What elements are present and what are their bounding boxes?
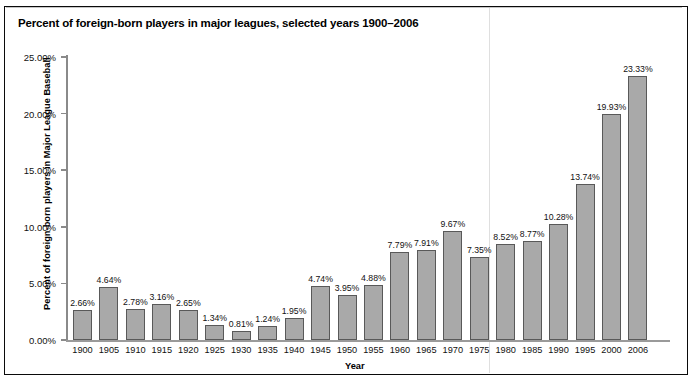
bar[interactable] <box>99 287 118 340</box>
bar[interactable] <box>496 244 515 340</box>
y-axis-tick-label: 20.00% <box>24 108 56 119</box>
bar-value-label: 8.77% <box>520 229 545 239</box>
bar-group[interactable]: 7.79% <box>390 57 409 340</box>
bar-value-label: 9.67% <box>440 219 465 229</box>
bar[interactable] <box>523 241 542 340</box>
bar[interactable] <box>576 184 595 340</box>
bar[interactable] <box>285 318 304 340</box>
bar-group[interactable]: 3.95% <box>338 57 357 340</box>
bar-value-label: 4.74% <box>308 274 333 284</box>
bar[interactable] <box>73 310 92 340</box>
bar-group[interactable]: 4.88% <box>364 57 383 340</box>
y-axis-tick <box>61 113 66 115</box>
bar-value-label: 1.95% <box>282 306 307 316</box>
bar-group[interactable]: 13.74% <box>576 57 595 340</box>
bar-group[interactable]: 3.16% <box>152 57 171 340</box>
y-axis-tick-label: 0.00% <box>29 335 56 346</box>
bar[interactable] <box>232 331 251 340</box>
bar[interactable] <box>311 286 330 340</box>
bar-group[interactable]: 1.24% <box>258 57 277 340</box>
scan-artifact-top <box>6 7 682 8</box>
bar-group[interactable]: 4.64% <box>99 57 118 340</box>
bar[interactable] <box>417 250 436 340</box>
bar-value-label: 1.24% <box>255 314 280 324</box>
bar-group[interactable]: 2.78% <box>126 57 145 340</box>
bar-group[interactable]: 7.91% <box>417 57 436 340</box>
bar[interactable] <box>258 326 277 340</box>
bar-group[interactable]: 1.95% <box>285 57 304 340</box>
bar-group[interactable]: 0.81% <box>232 57 251 340</box>
bar-value-label: 10.28% <box>544 212 573 222</box>
bar-group[interactable]: 19.93% <box>602 57 621 340</box>
bar[interactable] <box>549 224 568 340</box>
bar-group[interactable]: 2.66% <box>73 57 92 340</box>
bar-group[interactable]: 1.34% <box>205 57 224 340</box>
bar-value-label: 0.81% <box>229 319 254 329</box>
bar-group[interactable]: 10.28% <box>549 57 568 340</box>
y-axis-title: Percent of foreign-born players in Major… <box>42 60 52 310</box>
x-axis-tick-label: 2006 <box>618 345 658 355</box>
bar-group[interactable]: 7.35% <box>470 57 489 340</box>
bar[interactable] <box>126 309 145 340</box>
bar[interactable] <box>364 285 383 340</box>
bar-value-label: 2.78% <box>123 297 148 307</box>
bar[interactable] <box>205 325 224 340</box>
bar[interactable] <box>443 231 462 340</box>
bar[interactable] <box>152 304 171 340</box>
bar[interactable] <box>179 310 198 340</box>
bar-value-label: 1.34% <box>202 313 227 323</box>
bar-value-label: 8.52% <box>493 232 518 242</box>
bar-group[interactable]: 8.52% <box>496 57 515 340</box>
bar-group[interactable]: 23.33% <box>628 57 647 340</box>
bar-value-label: 13.74% <box>570 172 599 182</box>
bar-value-label: 2.66% <box>70 298 95 308</box>
y-axis-tick-label: 10.00% <box>24 221 56 232</box>
bar-series: 2.66%4.64%2.78%3.16%2.65%1.34%0.81%1.24%… <box>66 57 666 340</box>
bar-value-label: 19.93% <box>597 102 626 112</box>
x-axis-title: Year <box>345 361 365 371</box>
y-axis-tick-label: 25.00% <box>24 52 56 63</box>
chart-page: Percent of foreign-born players in major… <box>0 0 692 381</box>
bar[interactable] <box>390 252 409 340</box>
bar-value-label: 4.88% <box>361 273 386 283</box>
bar-value-label: 3.95% <box>335 283 360 293</box>
y-axis-tick <box>61 283 66 285</box>
bar-group[interactable]: 8.77% <box>523 57 542 340</box>
y-axis-tick-label: 15.00% <box>24 165 56 176</box>
bar-value-label: 4.64% <box>97 275 122 285</box>
bar-value-label: 7.79% <box>388 240 413 250</box>
bar-group[interactable]: 4.74% <box>311 57 330 340</box>
y-axis-title-wrap: Percent of foreign-born players in Major… <box>26 60 40 330</box>
y-axis-tick <box>61 226 66 228</box>
bar-value-label: 7.91% <box>414 238 439 248</box>
y-axis-tick-label: 5.00% <box>29 278 56 289</box>
bar[interactable] <box>470 257 489 340</box>
bar[interactable] <box>602 114 621 340</box>
bar-group[interactable]: 2.65% <box>179 57 198 340</box>
y-axis-tick <box>61 339 66 341</box>
x-axis-line <box>66 340 670 342</box>
bar-value-label: 7.35% <box>467 245 492 255</box>
bar[interactable] <box>338 295 357 340</box>
bar-value-label: 3.16% <box>150 292 175 302</box>
bar-group[interactable]: 9.67% <box>443 57 462 340</box>
y-axis-tick <box>61 56 66 58</box>
y-axis-tick <box>61 169 66 171</box>
bar-value-label: 23.33% <box>623 64 652 74</box>
bar[interactable] <box>628 76 647 340</box>
page-title: Percent of foreign-born players in major… <box>18 17 419 29</box>
bar-value-label: 2.65% <box>176 298 201 308</box>
